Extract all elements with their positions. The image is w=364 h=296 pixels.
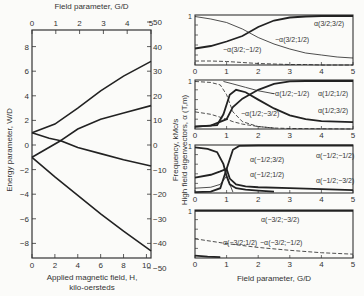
energy-level-chart: Field parameter, G/D0123450246810Applied… xyxy=(5,2,189,292)
right-tick-label: −10 xyxy=(153,166,167,175)
top-tick-label: 1 xyxy=(54,19,59,28)
curve-label: α(−1/2;−3/2) xyxy=(316,177,354,185)
y-tick-label: −4 xyxy=(20,190,30,199)
bottom-tick-label: 4 xyxy=(76,261,81,270)
y-tick-label: 4 xyxy=(25,92,30,101)
curve-label: −α(3/2;1/2) xyxy=(275,36,309,44)
panel-x-tick: 4 xyxy=(319,260,324,269)
eigenvector-curve xyxy=(195,81,353,127)
y-tick-label: −2 xyxy=(20,166,30,175)
right-axis-title: Frequency, kMc/s xyxy=(171,119,180,182)
top-axis-title: Field parameter, G/D xyxy=(54,2,128,11)
eigenvector-curve xyxy=(195,256,220,257)
panel-x-tick: 5 xyxy=(351,67,356,76)
bottom-tick-label: 2 xyxy=(53,261,58,270)
curve-label: −α(1/2;−3/2) xyxy=(241,110,279,118)
right-tick-label: 20 xyxy=(153,92,162,101)
y-tick-label: 2 xyxy=(25,116,30,125)
top-tick-label: 0 xyxy=(30,19,35,28)
panel-x-tick: 1 xyxy=(224,131,229,140)
curve-label: α(−1/2;1/2) xyxy=(250,171,284,179)
right-tick-label: 40 xyxy=(153,43,162,52)
right-tick-label: 30 xyxy=(153,67,162,76)
y-tick-label: 8 xyxy=(25,43,30,52)
panel-x-tick: 3 xyxy=(288,131,293,140)
eigenvector-curve xyxy=(195,147,274,191)
curve-label: α(−3/2;1/2) xyxy=(223,239,257,247)
panel-x-tick: 2 xyxy=(256,67,261,76)
panel-x-tick: 3 xyxy=(288,195,293,204)
curve-label: α(−1/2;3/2) xyxy=(250,156,284,164)
bottom-tick-label: 8 xyxy=(121,261,126,270)
panel-x-tick: 3 xyxy=(288,260,293,269)
curve-label: −α(1/2;−1/2) xyxy=(271,90,309,98)
right-tick-label: 10 xyxy=(153,116,162,125)
right-tick-label: −50 xyxy=(153,264,167,273)
panel-y-tick: 1 xyxy=(188,208,192,215)
curve-label: −α(3/2;−1/2) xyxy=(223,46,261,54)
panel-x-tick: 1 xyxy=(224,260,229,269)
panel-x-tick: 0 xyxy=(193,195,198,204)
y-axis-title: Energy parameter, W/D xyxy=(5,108,14,192)
right-tick-label: −30 xyxy=(153,215,167,224)
y-tick-label: −8 xyxy=(20,239,30,248)
eigenvector-panel-3: 0123451α(−1/2;3/2)α(−1/2;1/2)α(−1/2;−1/2… xyxy=(188,143,356,204)
panel-x-tick: 5 xyxy=(351,195,356,204)
panel-x-tick: 2 xyxy=(256,195,261,204)
panel-x-tick: 4 xyxy=(319,67,324,76)
bottom-tick-label: 0 xyxy=(30,261,35,270)
panel-x-tick: 0 xyxy=(193,131,198,140)
panel-x-tick: 3 xyxy=(288,67,293,76)
top-tick-label: 2 xyxy=(77,19,82,28)
curve-label: α(1/2;3/2) xyxy=(318,107,348,115)
panel-x-tick: 1 xyxy=(224,195,229,204)
x-axis-title-units: kilo-oersteds xyxy=(69,283,114,292)
panel-x-tick: 5 xyxy=(351,131,356,140)
top-tick-label: 4 xyxy=(125,19,130,28)
panel-y-tick: 1 xyxy=(188,13,192,20)
panel-x-axis-title: Field parameter, G/D xyxy=(237,274,311,283)
curve-label: α(−1/2;−1/2) xyxy=(316,152,354,160)
energy-curve xyxy=(32,141,151,166)
right-tick-label: −40 xyxy=(153,239,167,248)
curve-label: α(1/2;1/2) xyxy=(318,90,348,98)
panel-x-tick: 4 xyxy=(319,195,324,204)
panel-x-tick: 1 xyxy=(224,67,229,76)
right-tick-label: 50 xyxy=(153,18,162,27)
panel-y-tick: 1 xyxy=(188,78,192,85)
plot-frame xyxy=(32,30,151,258)
figure: Field parameter, G/D0123450246810Applied… xyxy=(0,0,364,296)
panel-y-tick: 1 xyxy=(188,143,192,150)
panel-x-tick: 2 xyxy=(256,131,261,140)
panel-x-tick: 2 xyxy=(256,260,261,269)
y-tick-label: 6 xyxy=(25,67,30,76)
y-tick-label: 0 xyxy=(25,141,30,150)
panel-x-tick: 4 xyxy=(319,131,324,140)
panel-x-tick: 0 xyxy=(193,67,198,76)
curve-label: α(−3/2;−3/2) xyxy=(261,216,299,224)
eigenvector-panel-1: 0123451α(3/2;3/2)−α(3/2;1/2)−α(3/2;−1/2) xyxy=(188,13,356,76)
curve-label: −α(−3/2;−1/2) xyxy=(260,239,302,247)
eigenvector-curve xyxy=(195,61,353,65)
panel-x-tick: 0 xyxy=(193,260,198,269)
right-tick-label: 0 xyxy=(153,141,158,150)
energy-curve xyxy=(32,61,151,132)
energy-curve xyxy=(32,106,151,141)
bottom-tick-label: 6 xyxy=(98,261,103,270)
energy-curve xyxy=(32,157,151,250)
panel-x-tick: 5 xyxy=(351,260,356,269)
eigenvector-panel-4: 0123451Field parameter, G/Dα(−3/2;−3/2)α… xyxy=(188,208,356,283)
bottom-tick-label: 10 xyxy=(142,261,151,270)
top-tick-label: 3 xyxy=(101,19,106,28)
curve-label: α(3/2;3/2) xyxy=(314,20,344,28)
eigenvector-panel-2: 0123451−α(1/2;−1/2)α(1/2;1/2)α(1/2;3/2)−… xyxy=(188,78,356,140)
y-tick-label: −6 xyxy=(20,215,30,224)
right-tick-label: −20 xyxy=(153,190,167,199)
x-axis-title: Applied magnetic field, H, xyxy=(47,273,138,282)
